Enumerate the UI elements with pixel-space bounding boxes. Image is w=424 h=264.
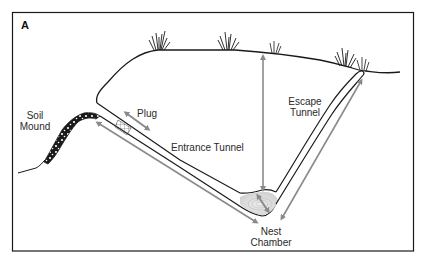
nest-chamber-label-line1: Nest [249, 226, 293, 237]
grass-clump-5 [357, 57, 369, 71]
burrow-diagram: A Soil Mound Plug Entrance Tunnel Escape… [0, 0, 424, 264]
nest-chamber-label-line2: Chamber [249, 237, 293, 248]
ground-left-line [18, 160, 45, 173]
escape-tunnel-label-line1: Escape [287, 96, 323, 107]
panel-letter: A [21, 19, 29, 31]
escape-tunnel-right-wall [276, 74, 364, 204]
escape-tunnel-label-line2: Tunnel [287, 107, 323, 118]
soil-mound-label-line2: Mound [15, 121, 55, 132]
entrance-tunnel-label: Entrance Tunnel [171, 142, 244, 153]
plug-label: Plug [137, 108, 157, 119]
ground-surface-line [97, 50, 400, 103]
soil-mound-label: Soil Mound [15, 110, 55, 132]
escape-tunnel-label: Escape Tunnel [287, 96, 323, 118]
tunnel-plug [115, 120, 131, 135]
burrow-diagram-graphic [0, 0, 424, 264]
grass-clump-2 [218, 32, 239, 50]
entrance-tunnel-length-arrow [98, 123, 256, 222]
soil-mound-label-line1: Soil [15, 110, 55, 121]
panel-frame [13, 13, 414, 252]
nest-chamber [240, 192, 278, 215]
grass-clump-3 [270, 41, 281, 53]
nest-chamber-label: Nest Chamber [249, 226, 293, 248]
grass-clump-1 [149, 31, 170, 50]
grass-clump-4 [335, 48, 356, 68]
